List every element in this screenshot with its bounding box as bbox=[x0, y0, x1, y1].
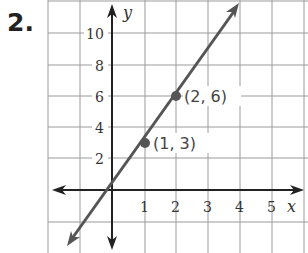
y-tick-8: 8 bbox=[95, 58, 104, 74]
y-tick-10: 10 bbox=[86, 26, 104, 42]
point-label-1-3: (1, 3) bbox=[153, 134, 196, 153]
x-axis bbox=[52, 185, 304, 195]
x-tick-3: 3 bbox=[203, 199, 212, 215]
y-tick-2: 2 bbox=[95, 151, 104, 167]
x-axis-label: x bbox=[287, 197, 296, 216]
y-axis-label: y bbox=[122, 3, 133, 22]
point-label-2-6: (2, 6) bbox=[184, 87, 227, 106]
coordinate-plane: (1, 3) (2, 6) 10 8 6 4 2 1 2 3 4 5 y x bbox=[0, 0, 308, 253]
point-1-3 bbox=[140, 138, 150, 148]
x-tick-1: 1 bbox=[140, 199, 149, 215]
x-tick-5: 5 bbox=[267, 199, 276, 215]
x-tick-4: 4 bbox=[235, 199, 244, 215]
point-2-6 bbox=[171, 91, 181, 101]
x-tick-2: 2 bbox=[171, 199, 180, 215]
y-tick-6: 6 bbox=[95, 89, 104, 105]
y-tick-4: 4 bbox=[95, 120, 104, 136]
